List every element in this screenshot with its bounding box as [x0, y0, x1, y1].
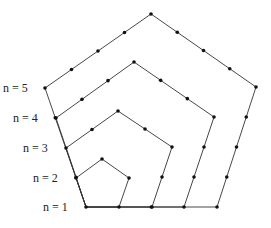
dot: [90, 128, 94, 132]
dot: [244, 115, 248, 119]
dot: [175, 30, 179, 34]
dot: [202, 49, 206, 53]
dot: [106, 79, 110, 83]
dot: [80, 98, 84, 102]
dot: [170, 145, 174, 149]
dot: [116, 109, 120, 113]
label-n3: n = 3: [23, 142, 48, 154]
pentagon-drawing: [0, 0, 271, 228]
dot: [53, 116, 57, 120]
label-n5: n = 5: [3, 82, 28, 94]
dot: [215, 205, 219, 209]
dot: [117, 205, 121, 209]
dot: [186, 97, 190, 101]
dot: [235, 145, 239, 149]
dot: [160, 175, 164, 179]
dot: [225, 175, 229, 179]
dot: [43, 86, 47, 90]
dot: [132, 60, 136, 64]
dot: [143, 127, 147, 131]
dot: [70, 68, 74, 72]
dot: [149, 12, 153, 16]
label-n4: n = 4: [13, 112, 38, 124]
pentagonal-numbers-diagram: n = 5n = 4n = 3n = 2n = 1: [0, 0, 271, 228]
dot: [100, 157, 104, 161]
dot: [182, 205, 186, 209]
label-n2: n = 2: [33, 172, 58, 184]
dot: [150, 205, 154, 209]
dot: [123, 31, 127, 35]
label-n1: n = 1: [43, 201, 68, 213]
pentagon-n4: [56, 62, 214, 207]
dot: [254, 85, 258, 89]
dot: [159, 79, 163, 83]
dot: [64, 146, 68, 150]
dot: [74, 176, 78, 180]
dot: [202, 145, 206, 149]
dot: [84, 205, 88, 209]
dot: [228, 67, 232, 71]
pentagon-n3: [66, 111, 172, 207]
dot: [127, 176, 131, 180]
dot: [212, 115, 216, 119]
dot: [96, 49, 100, 53]
dot: [192, 175, 196, 179]
